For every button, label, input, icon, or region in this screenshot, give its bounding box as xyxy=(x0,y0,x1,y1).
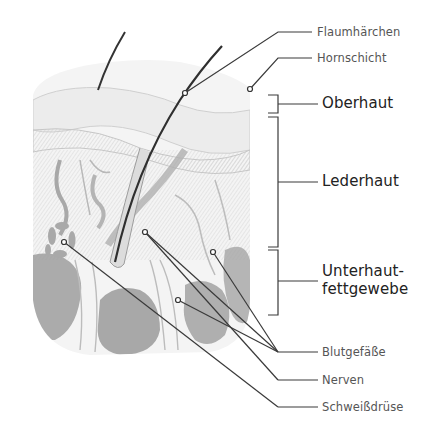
anchor-flaumhaerchen xyxy=(183,91,188,96)
anchor-hornschicht xyxy=(248,87,253,92)
label-lederhaut: Lederhaut xyxy=(322,173,399,190)
label-unterhaut-line1: Unterhaut- xyxy=(322,263,404,280)
label-hornschicht: Hornschicht xyxy=(317,52,387,65)
label-flaumhaerchen: Flaumhärchen xyxy=(317,26,400,39)
label-oberhaut: Oberhaut xyxy=(322,95,393,112)
anchor-nerven xyxy=(143,230,148,235)
label-unterhaut-line2: fettgewebe xyxy=(322,281,408,298)
label-nerven: Nerven xyxy=(322,374,364,387)
label-schweissdruese: Schweißdrüse xyxy=(322,401,403,414)
anchor-blutgefaesse-2 xyxy=(176,298,181,303)
anchor-schweissdruese xyxy=(62,240,67,245)
skin-diagram xyxy=(0,0,446,446)
label-blutgefaesse: Blutgefäße xyxy=(322,346,386,359)
anchor-blutgefaesse-1 xyxy=(211,250,216,255)
skin-block xyxy=(30,55,255,360)
